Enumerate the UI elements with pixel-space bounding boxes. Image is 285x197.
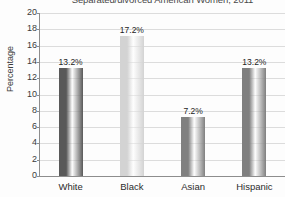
- chart-title: Separated/divorced American Women, 2011: [40, 0, 285, 5]
- bar-black[interactable]: [120, 36, 144, 176]
- bar-value-label: 13.2%: [46, 57, 96, 67]
- y-tick-mark: [37, 176, 40, 177]
- y-tick-mark: [37, 143, 40, 144]
- y-tick-label: 20: [1, 7, 37, 17]
- y-tick-label: 2: [1, 154, 37, 164]
- bar-group[interactable]: 17.2%: [120, 13, 144, 176]
- plot-area: 02468101214161820 13.2%17.2%7.2%13.2%: [40, 13, 285, 176]
- y-tick-label: 16: [1, 40, 37, 50]
- y-tick-label: 18: [1, 23, 37, 33]
- y-tick-mark: [37, 62, 40, 63]
- y-tick-label: 0: [1, 170, 37, 180]
- y-tick-mark: [37, 13, 40, 14]
- y-tick-label: 12: [1, 72, 37, 82]
- y-tick-label: 8: [1, 105, 37, 115]
- bar-group[interactable]: 13.2%: [242, 13, 266, 176]
- bar-asian[interactable]: [181, 117, 205, 176]
- x-tick-label-white: White: [36, 181, 106, 192]
- bar-value-label: 7.2%: [168, 106, 218, 116]
- bar-value-label: 13.2%: [229, 57, 279, 67]
- y-tick-mark: [37, 111, 40, 112]
- bar-hispanic[interactable]: [242, 68, 266, 176]
- bar-white[interactable]: [59, 68, 83, 176]
- y-tick-label: 14: [1, 56, 37, 66]
- bar-group[interactable]: 13.2%: [59, 13, 83, 176]
- y-tick-mark: [37, 46, 40, 47]
- x-axis-spine: [39, 176, 285, 177]
- x-tick-label-black: Black: [97, 181, 167, 192]
- y-tick-mark: [37, 127, 40, 128]
- y-tick-label: 6: [1, 121, 37, 131]
- y-tick-mark: [37, 95, 40, 96]
- x-tick-label-asian: Asian: [158, 181, 228, 192]
- bar-value-label: 17.2%: [107, 25, 157, 35]
- y-tick-label: 4: [1, 137, 37, 147]
- y-tick-mark: [37, 78, 40, 79]
- y-tick-mark: [37, 29, 40, 30]
- y-tick-mark: [37, 160, 40, 161]
- bar-group[interactable]: 7.2%: [181, 13, 205, 176]
- y-tick-label: 10: [1, 89, 37, 99]
- bar-chart: Separated/divorced American Women, 2011 …: [0, 0, 285, 197]
- x-tick-label-hispanic: Hispanic: [219, 181, 285, 192]
